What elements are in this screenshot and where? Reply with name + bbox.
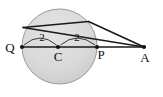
geometry-canvas: Q C P A 2 2 [0,0,163,97]
point-label-Q: Q [5,40,15,55]
point-Q-dot [20,45,24,49]
point-A-dot [142,45,146,49]
point-label-C: C [54,49,63,64]
measure-label-left: 2 [39,31,45,43]
geometry-figure: Q C P A 2 2 [0,0,163,97]
point-label-A: A [140,50,150,65]
point-label-P: P [97,47,104,62]
measure-label-right: 2 [74,31,80,43]
